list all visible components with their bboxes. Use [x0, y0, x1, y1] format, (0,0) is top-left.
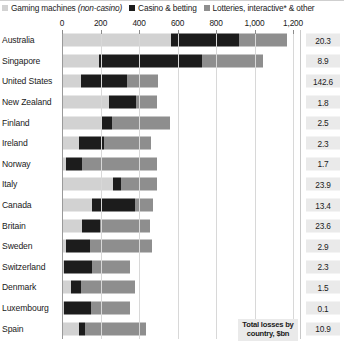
stacked-bar: [62, 302, 130, 315]
x-axis: 02004006008001,0001,200: [0, 18, 344, 30]
bar-segment: [127, 75, 158, 88]
bar-segment: [62, 75, 81, 88]
country-label: United States: [2, 76, 52, 86]
country-label: Australia: [2, 35, 35, 45]
gridline: [216, 30, 217, 339]
stacked-bar: [62, 178, 157, 191]
bar-segment: [62, 219, 82, 232]
bar-segment: [101, 116, 112, 129]
total-value-badge: 142.6: [306, 75, 340, 88]
bar-segment: [135, 199, 153, 212]
legend-item-label: Casino & betting: [138, 3, 196, 13]
bar-segment: [62, 137, 79, 150]
bar-segment: [90, 240, 153, 253]
stacked-bar: [62, 157, 157, 170]
bar-segment: [64, 302, 91, 315]
annotation-line-2: country, $bn: [241, 330, 295, 339]
x-axis-tickmark: [101, 30, 102, 34]
x-axis-tick-label: 200: [94, 18, 107, 28]
bar-segment: [81, 75, 127, 88]
total-value-badge: 23.6: [306, 219, 340, 232]
bar-segment: [62, 96, 109, 109]
x-axis-tick-label: 1,200: [283, 18, 303, 28]
stacked-bar: [62, 96, 157, 109]
stacked-bar: [62, 137, 151, 150]
total-value-badge: 20.3: [306, 34, 340, 47]
x-axis-tickmark: [216, 30, 217, 34]
total-value-badge: 2.5: [306, 116, 340, 129]
x-axis-tick-label: 600: [171, 18, 184, 28]
bar-segment: [85, 322, 146, 335]
country-label: Norway: [2, 159, 31, 169]
total-losses-annotation: Total losses by country, $bn: [238, 319, 298, 341]
total-value-badge: 23.9: [306, 178, 340, 191]
legend-label-note: (non-casino): [78, 3, 122, 13]
bar-segment: [71, 281, 82, 294]
total-value-badge: 1.5: [306, 281, 340, 294]
x-axis-tick-label: 400: [132, 18, 145, 28]
bar-segment: [81, 281, 135, 294]
bar-segment: [62, 199, 92, 212]
stacked-bar: [62, 75, 158, 88]
gridline: [255, 30, 256, 339]
axis-baseline: [62, 30, 63, 339]
gridline: [139, 30, 140, 339]
gridline: [101, 30, 102, 339]
country-label: New Zealand: [2, 97, 52, 107]
legend-item-gaming-machines: Gaming machines (non-casino): [2, 3, 122, 13]
total-value-badge: 2.3: [306, 260, 340, 273]
gridline: [293, 30, 294, 339]
x-axis-tickmark: [139, 30, 140, 34]
country-label: Singapore: [2, 56, 40, 66]
square-swatch-icon: [129, 5, 135, 11]
bar-segment: [62, 322, 79, 335]
bar-segment: [113, 178, 121, 191]
bar-segment: [91, 302, 130, 315]
legend-item-label: Lotteries, interactive* & other: [213, 3, 315, 13]
country-label: Denmark: [2, 282, 36, 292]
stacked-bar: [62, 260, 130, 273]
country-label: Britain: [2, 221, 26, 231]
country-label: Italy: [2, 179, 17, 189]
stacked-bar: [62, 281, 135, 294]
chart-legend: Gaming machines (non-casino) Casino & be…: [0, 0, 344, 16]
x-axis-tickmark: [62, 30, 63, 34]
stacked-bar: [62, 322, 146, 335]
country-label: Canada: [2, 200, 32, 210]
country-label: Ireland: [2, 138, 28, 148]
bar-segment: [92, 260, 131, 273]
x-axis-tickmark: [293, 30, 294, 34]
bar-segment: [62, 281, 71, 294]
bar-segment: [109, 96, 136, 109]
bar-segment: [99, 54, 202, 67]
x-axis-tickmark: [178, 30, 179, 34]
total-value-badge: 13.4: [306, 199, 340, 212]
bar-segment: [62, 178, 113, 191]
bar-segment: [92, 199, 135, 212]
country-label: Luxembourg: [2, 303, 49, 313]
bar-segment: [104, 137, 150, 150]
chart-plot-area: Australia20.3Singapore8.9United States14…: [0, 30, 344, 355]
x-axis-tick-label: 800: [209, 18, 222, 28]
stacked-bar: [62, 219, 150, 232]
legend-item-casino-betting: Casino & betting: [129, 3, 196, 13]
legend-label-text: Gaming machines: [11, 3, 76, 13]
stacked-bar: [62, 54, 263, 67]
bar-segment: [62, 54, 99, 67]
x-axis-tick-label: 1,000: [245, 18, 265, 28]
country-label: Switzerland: [2, 262, 45, 272]
bar-segment: [171, 34, 239, 47]
total-value-badge: 1.7: [306, 157, 340, 170]
bar-segment: [62, 34, 171, 47]
legend-item-lotteries-interactive-other: Lotteries, interactive* & other: [204, 3, 315, 13]
bar-segment: [66, 240, 90, 253]
stacked-bar: [62, 116, 170, 129]
square-swatch-icon: [2, 5, 8, 11]
legend-item-label: Gaming machines (non-casino): [11, 3, 122, 13]
bar-segment: [82, 157, 157, 170]
total-value-badge: 0.1: [306, 302, 340, 315]
country-label: Sweden: [2, 241, 32, 251]
country-label: Finland: [2, 118, 30, 128]
value-column-divider: [300, 30, 301, 339]
bar-segment: [239, 34, 288, 47]
